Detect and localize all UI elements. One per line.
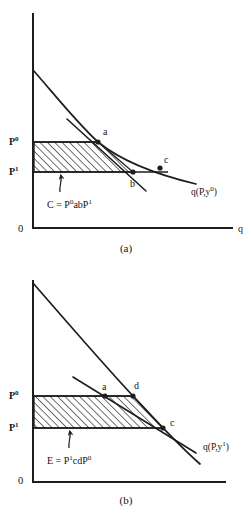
economics-figure: P0 P1 0 q a b c q(P,y0) C = P0abP1 (a) bbox=[0, 0, 252, 532]
price-label-p1-panel-b: P1 bbox=[9, 421, 19, 433]
panel-b: P0 P1 0 a d c q(P,y1) E = P1cdP0 (b) bbox=[0, 266, 252, 532]
point-c-marker-panel-a bbox=[157, 165, 162, 170]
area-pointer-arrow-panel-a bbox=[60, 176, 61, 192]
point-label-a-panel-a: a bbox=[103, 126, 108, 137]
price-label-p0-panel-b: P0 bbox=[9, 389, 19, 401]
price-label-p1-panel-a: P1 bbox=[9, 165, 19, 177]
caption-panel-a: (a) bbox=[120, 242, 133, 255]
point-a-marker-panel-b bbox=[102, 393, 107, 398]
point-d-marker-panel-b bbox=[130, 393, 135, 398]
point-label-c-panel-b: c bbox=[170, 417, 175, 428]
area-pointer-arrow-panel-b bbox=[69, 432, 70, 448]
caption-panel-b: (b) bbox=[120, 494, 133, 507]
shaded-area-e bbox=[34, 396, 163, 428]
price-label-p0-panel-a: P0 bbox=[9, 135, 19, 147]
point-b-marker-panel-a bbox=[130, 169, 135, 174]
origin-label-panel-a: 0 bbox=[18, 223, 23, 234]
point-a-marker-panel-a bbox=[95, 139, 100, 144]
point-label-c-panel-a: c bbox=[164, 154, 169, 165]
shaded-area-c bbox=[34, 142, 133, 172]
x-axis-label-panel-a: q bbox=[238, 223, 243, 234]
demand-curve-label-panel-b: q(P,y1) bbox=[203, 440, 229, 453]
point-label-b-panel-a: b bbox=[130, 178, 135, 189]
demand-curve-panel-b bbox=[33, 283, 200, 464]
point-label-a-panel-b: a bbox=[102, 381, 107, 392]
origin-label-panel-b: 0 bbox=[18, 475, 23, 486]
point-c-marker-panel-b bbox=[160, 425, 165, 430]
point-label-d-panel-b: d bbox=[134, 380, 139, 391]
area-annotation-panel-b: E = P1cdP0 bbox=[47, 454, 92, 466]
area-annotation-panel-a: C = P0abP1 bbox=[47, 198, 92, 210]
demand-curve-label-panel-a: q(P,y0) bbox=[191, 185, 217, 198]
panel-a: P0 P1 0 q a b c q(P,y0) C = P0abP1 (a) bbox=[0, 0, 252, 266]
